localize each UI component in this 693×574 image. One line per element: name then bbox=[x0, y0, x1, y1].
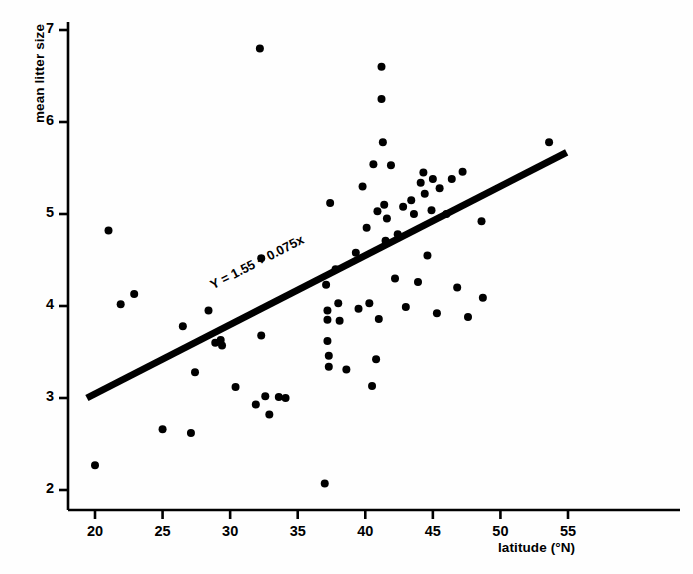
data-point bbox=[334, 299, 342, 307]
data-point bbox=[407, 196, 415, 204]
y-tick-label: 5 bbox=[46, 204, 54, 220]
data-point bbox=[383, 215, 391, 223]
data-point bbox=[117, 300, 125, 308]
axis-ticks bbox=[59, 30, 568, 519]
regression-line bbox=[87, 152, 567, 398]
data-point bbox=[448, 175, 456, 183]
y-tick-label: 2 bbox=[46, 480, 54, 496]
x-tick-label: 40 bbox=[353, 523, 377, 539]
x-tick-label: 35 bbox=[286, 523, 310, 539]
data-point bbox=[252, 400, 260, 408]
data-point bbox=[478, 217, 486, 225]
data-point bbox=[321, 480, 329, 488]
data-point bbox=[428, 206, 436, 214]
data-point bbox=[365, 299, 373, 307]
data-point bbox=[479, 294, 487, 302]
data-point bbox=[414, 278, 422, 286]
x-tick-label: 20 bbox=[83, 523, 107, 539]
data-point bbox=[355, 305, 363, 313]
data-point bbox=[256, 44, 264, 52]
data-point bbox=[323, 316, 331, 324]
data-point bbox=[325, 352, 333, 360]
y-tick-label: 4 bbox=[46, 296, 54, 312]
axes bbox=[68, 22, 680, 510]
data-point bbox=[429, 175, 437, 183]
data-point bbox=[363, 224, 371, 232]
x-tick-label: 45 bbox=[421, 523, 445, 539]
data-point bbox=[423, 251, 431, 259]
data-point bbox=[402, 303, 410, 311]
y-tick-label: 3 bbox=[46, 388, 54, 404]
scatter-plot-figure: 2345672025303540455055 Y = 1.55 + 0.075x… bbox=[0, 0, 693, 574]
data-point bbox=[359, 182, 367, 190]
data-point bbox=[372, 355, 380, 363]
data-point bbox=[421, 190, 429, 198]
data-point bbox=[179, 322, 187, 330]
data-point bbox=[326, 199, 334, 207]
x-tick-label: 55 bbox=[556, 523, 580, 539]
data-point bbox=[399, 203, 407, 211]
data-point bbox=[282, 394, 290, 402]
data-point bbox=[261, 392, 269, 400]
data-point bbox=[322, 281, 330, 289]
data-point bbox=[342, 365, 350, 373]
y-tick-label: 7 bbox=[46, 20, 54, 36]
data-point bbox=[464, 313, 472, 321]
data-point bbox=[191, 368, 199, 376]
data-point bbox=[159, 425, 167, 433]
data-point bbox=[257, 331, 265, 339]
data-point bbox=[205, 307, 213, 315]
data-point bbox=[380, 201, 388, 209]
data-point bbox=[391, 274, 399, 282]
data-point bbox=[436, 184, 444, 192]
data-points bbox=[91, 44, 553, 487]
data-point bbox=[369, 160, 377, 168]
data-point bbox=[387, 161, 395, 169]
data-point bbox=[91, 461, 99, 469]
data-point bbox=[130, 290, 138, 298]
data-point bbox=[275, 393, 283, 401]
data-point bbox=[368, 382, 376, 390]
data-point bbox=[373, 207, 381, 215]
data-point bbox=[378, 63, 386, 71]
data-point bbox=[378, 95, 386, 103]
y-tick-label: 6 bbox=[46, 112, 54, 128]
data-point bbox=[336, 317, 344, 325]
data-point bbox=[375, 315, 383, 323]
data-point bbox=[325, 363, 333, 371]
data-point bbox=[453, 284, 461, 292]
data-point bbox=[187, 429, 195, 437]
data-point bbox=[433, 309, 441, 317]
data-point bbox=[323, 307, 331, 315]
data-point bbox=[265, 411, 273, 419]
x-tick-label: 30 bbox=[218, 523, 242, 539]
x-tick-label: 50 bbox=[488, 523, 512, 539]
plot-canvas bbox=[0, 0, 693, 574]
data-point bbox=[545, 138, 553, 146]
data-point bbox=[410, 210, 418, 218]
x-tick-label: 25 bbox=[151, 523, 175, 539]
data-point bbox=[459, 168, 467, 176]
data-point bbox=[323, 337, 331, 345]
data-point bbox=[218, 342, 226, 350]
y-axis-title: mean litter size bbox=[32, 0, 47, 149]
data-point bbox=[232, 383, 240, 391]
x-axis-title: latitude (°N) bbox=[498, 540, 575, 555]
data-point bbox=[379, 138, 387, 146]
data-point bbox=[105, 227, 113, 235]
data-point bbox=[417, 179, 425, 187]
data-point bbox=[419, 169, 427, 177]
